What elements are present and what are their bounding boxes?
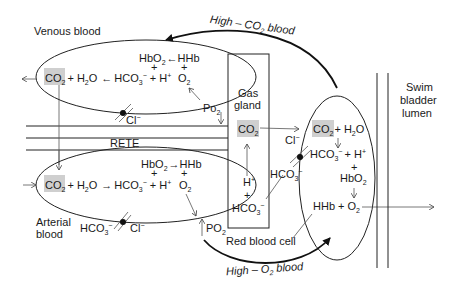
arterial-cl-label: Cl− <box>130 222 144 234</box>
arterial-blood-label-line2: blood <box>36 228 63 240</box>
swim-bladder-label-line3: lumen <box>402 107 432 119</box>
high-o2-blood-label: High – O2 blood <box>226 260 305 279</box>
swim-bladder-label-line2: bladder <box>400 94 437 106</box>
svg-text:+: + <box>244 189 250 201</box>
svg-text:+: + <box>151 167 157 179</box>
rbc-cl-label: Cl− <box>285 134 299 146</box>
gas-gland-label-line1: Gas <box>238 87 259 99</box>
venous-po2-label: Po2 <box>203 102 220 116</box>
svg-text:+: + <box>151 61 157 73</box>
venous-o2: O2 <box>178 72 191 86</box>
rbc-hco3-h: HCO3−+ H+ <box>310 148 366 162</box>
gas-gland-label-line2: gland <box>234 99 261 111</box>
high-co2-blood-label: High – CO2 blood <box>209 13 296 39</box>
rbc-hbo2: HbO2 <box>340 172 367 186</box>
swim-bladder-label-line1: Swim <box>406 81 433 93</box>
gland-hco3: HCO3− <box>232 202 264 216</box>
rbc-hhb-o2: HHb + O2 <box>313 200 360 214</box>
swim-bladder-wall: Swim bladder lumen <box>377 73 437 268</box>
red-blood-cell-label: Red blood cell <box>226 235 296 247</box>
arterial-blood-label-line1: Arterial <box>36 216 71 228</box>
arterial-o2: O2 <box>179 179 192 193</box>
swim-bladder-gas-secretion-diagram: RETE Venous blood CO2+ H2O←HCO3−+ H+ HbO… <box>0 0 460 288</box>
venous-blood-vessel: Venous blood CO2+ H2O←HCO3−+ H+ HbO2←HHb… <box>22 25 256 126</box>
arterial-hco3-label: HCO3− <box>80 222 112 236</box>
arterial-po2-label: PO2 <box>206 222 226 236</box>
arterial-chloride-exchanger <box>120 219 126 225</box>
venous-cl-label: Cl− <box>126 114 140 126</box>
rbc-co2-equation: CO2+ H2O <box>313 123 365 137</box>
rbc-hco3-exchange-label: HCO3− <box>270 168 302 182</box>
svg-text:+: + <box>181 167 187 179</box>
rete-channel: RETE <box>26 126 228 150</box>
venous-blood-label: Venous blood <box>34 25 101 37</box>
arterial-blood-vessel: CO2+ H2O→HCO3−+ H+ HbO2→HHb + + O2 PO2 H… <box>23 147 256 240</box>
venous-hb-equation: HbO2←HHb <box>139 52 200 66</box>
gland-h: H+ <box>243 176 255 188</box>
rbc-chloride-exchanger <box>297 154 303 160</box>
